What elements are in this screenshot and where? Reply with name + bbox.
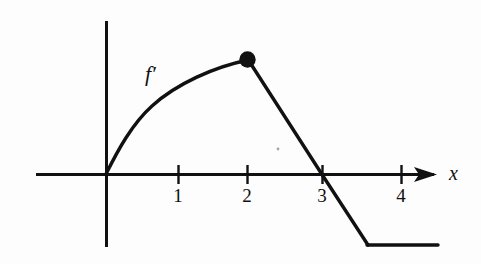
x-tick-label-4: 4 [389,186,413,206]
x-tick-label-1: 1 [166,186,190,206]
f-prime-curve-label: f′ [145,61,156,87]
x-axis-label: x [449,162,458,185]
corner-point-marker [239,51,255,67]
x-tick-label-3: 3 [310,186,334,206]
scan-speck-artifact [277,148,280,151]
figure-canvas: 1 2 3 4 x f′ [0,0,481,264]
plot-area [0,0,481,264]
x-tick-label-2: 2 [235,186,259,206]
curve-segment-descending [249,61,323,176]
curve-segment-rising-arc [106,60,248,174]
